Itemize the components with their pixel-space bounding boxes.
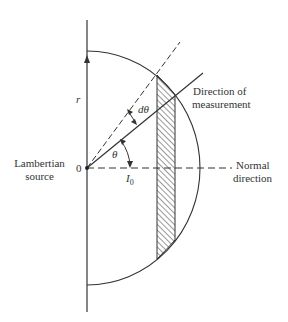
r-label: r [76, 93, 80, 106]
origin-point [85, 166, 89, 170]
theta-arrowhead-bottom-icon [127, 161, 133, 168]
origin-label: 0 [76, 162, 82, 175]
r-arrow-icon [84, 55, 90, 63]
theta-label: θ [112, 148, 117, 161]
normal-direction-label-2: direction [233, 172, 272, 185]
direction-of-measurement-label-2: measurement [192, 98, 251, 111]
lambertian-label-1: Lambertian [12, 157, 67, 170]
dtheta-arrowhead-bottom-icon [131, 119, 137, 125]
lambertian-label-2: source [12, 170, 67, 183]
direction-of-measurement-label-1: Direction of [193, 85, 246, 98]
measurement-direction-line [87, 73, 203, 168]
i0-label: I0 [126, 172, 134, 189]
dtheta-label: dθ [138, 103, 149, 116]
normal-direction-label-1: Normal [236, 159, 270, 172]
